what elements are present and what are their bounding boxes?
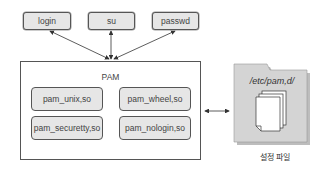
module-label: pam_wheel,so xyxy=(128,94,183,104)
app-su-label: su xyxy=(107,16,116,26)
module-label: pam_unix,so xyxy=(43,94,91,104)
module-pam-securetty: pam_securetty,so xyxy=(31,116,103,140)
config-file-caption: 설정 파일 xyxy=(240,151,310,162)
module-label: pam_nologin,so xyxy=(125,123,185,133)
folder-path-label: /etc/pam,d/ xyxy=(240,76,304,86)
app-login-label: login xyxy=(38,16,56,26)
module-pam-nologin: pam_nologin,so xyxy=(119,116,191,140)
app-su: su xyxy=(88,12,135,30)
module-pam-unix: pam_unix,so xyxy=(31,87,103,111)
app-login: login xyxy=(23,12,71,30)
module-label: pam_securetty,so xyxy=(34,123,100,133)
pam-title: PAM xyxy=(21,72,200,82)
app-passwd: passwd xyxy=(152,12,199,30)
module-pam-wheel: pam_wheel,so xyxy=(119,87,191,111)
app-passwd-label: passwd xyxy=(161,16,190,26)
pam-container: PAM pam_unix,so pam_wheel,so pam_securet… xyxy=(20,61,201,160)
